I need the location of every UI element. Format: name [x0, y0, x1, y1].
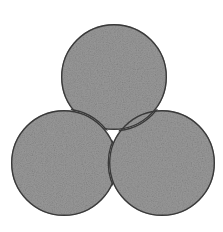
triskelion-figure — [0, 0, 223, 232]
figure-root — [0, 0, 223, 232]
crescent-right-fill — [0, 0, 223, 232]
crescent-right — [0, 0, 223, 232]
